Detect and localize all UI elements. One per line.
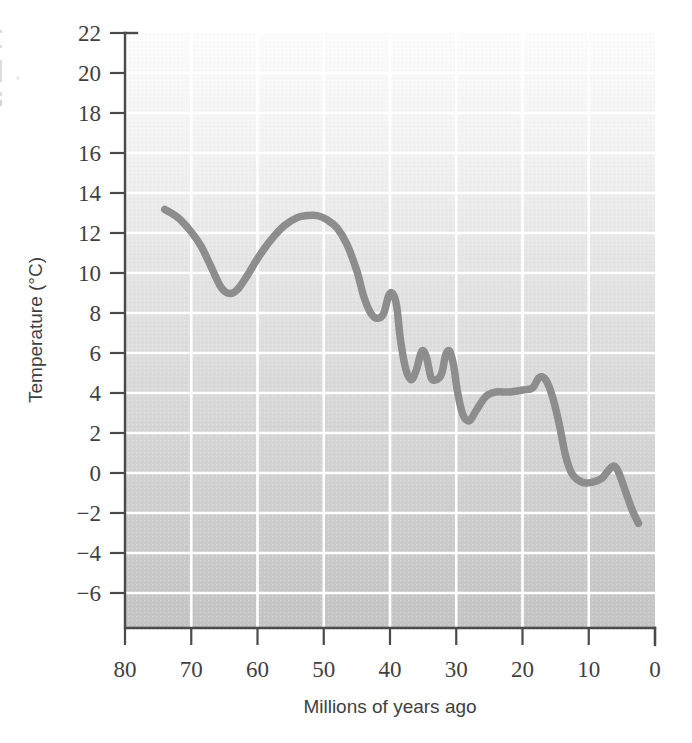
y-axis-ticks (110, 33, 125, 593)
y-tick-label: 18 (78, 101, 101, 126)
x-tick-label: 10 (577, 657, 600, 682)
x-tick-label: 30 (445, 657, 468, 682)
scan-artifact (0, 30, 20, 106)
y-tick-label: 14 (78, 181, 102, 206)
y-tick-label: 16 (78, 141, 101, 166)
y-tick-label: 10 (78, 261, 101, 286)
y-axis-tick-labels: 22 20 18 16 14 12 10 8 6 4 2 0 −2 −4 −6 (77, 21, 102, 606)
x-tick-label: 0 (649, 657, 661, 682)
x-tick-label: 60 (246, 657, 269, 682)
y-axis-title: Temperature (°C) (25, 257, 46, 403)
y-tick-label: −2 (77, 501, 101, 526)
y-tick-label: 8 (90, 301, 102, 326)
y-tick-label: 12 (78, 221, 101, 246)
x-tick-label: 20 (511, 657, 534, 682)
x-axis-title: Millions of years ago (303, 696, 476, 717)
y-tick-label: 0 (90, 461, 102, 486)
chart-figure: 22 20 18 16 14 12 10 8 6 4 2 0 −2 −4 −6 (0, 0, 692, 743)
x-axis-tick-labels: 80 70 60 50 40 30 20 10 0 (114, 657, 661, 682)
x-tick-label: 40 (379, 657, 402, 682)
y-tick-label: 6 (90, 341, 102, 366)
temperature-line-chart: 22 20 18 16 14 12 10 8 6 4 2 0 −2 −4 −6 (0, 0, 692, 743)
y-tick-label: −6 (77, 581, 101, 606)
x-tick-label: 50 (312, 657, 335, 682)
x-tick-label: 80 (114, 657, 137, 682)
y-tick-label: 20 (78, 61, 101, 86)
y-tick-label: −4 (77, 541, 102, 566)
y-tick-label: 4 (90, 381, 102, 406)
x-tick-label: 70 (180, 657, 203, 682)
x-axis-ticks (125, 628, 655, 645)
y-tick-label: 22 (78, 21, 101, 46)
y-tick-label: 2 (90, 421, 102, 446)
